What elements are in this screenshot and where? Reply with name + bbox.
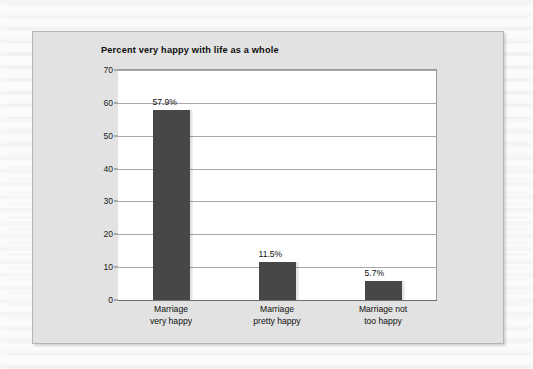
y-axis-tick-mark bbox=[114, 135, 118, 136]
x-axis-category-label-line: Marriage bbox=[119, 304, 223, 316]
x-axis-category-label-line: very happy bbox=[119, 316, 223, 328]
bar-group[interactable]: 57.9% bbox=[131, 70, 211, 300]
x-axis-category-label-line: Marriage not bbox=[331, 304, 435, 316]
y-axis-tick-mark bbox=[114, 102, 118, 103]
x-axis-category-label: Marriagepretty happy bbox=[225, 304, 329, 327]
chart-title: Percent very happy with life as a whole bbox=[101, 45, 279, 55]
y-axis-tick-label: 70 bbox=[103, 65, 113, 75]
y-axis-tick-mark bbox=[114, 234, 118, 235]
bar-value-label: 57.9% bbox=[153, 97, 177, 107]
y-axis-tick-mark bbox=[114, 300, 118, 301]
y-axis-tick-label: 30 bbox=[103, 196, 113, 206]
y-axis-tick-mark bbox=[114, 267, 118, 268]
y-axis-tick-mark bbox=[114, 201, 118, 202]
bar[interactable]: 5.7% bbox=[365, 281, 402, 300]
y-axis-tick-label: 0 bbox=[108, 295, 113, 305]
chart-figure-panel: Percent very happy with life as a whole … bbox=[32, 31, 504, 344]
plot-area: 01020304050607057.9%11.5%5.7% bbox=[118, 69, 437, 300]
x-axis-category-label-line: pretty happy bbox=[225, 316, 329, 328]
bar-value-label: 5.7% bbox=[365, 268, 385, 278]
bar-value-label: 11.5% bbox=[259, 249, 283, 259]
x-axis-category-label-line: too happy bbox=[331, 316, 435, 328]
y-axis-tick-mark bbox=[114, 168, 118, 169]
x-axis-category-label: Marriage nottoo happy bbox=[331, 304, 435, 327]
y-axis-tick-mark bbox=[114, 70, 118, 71]
y-axis-tick-label: 40 bbox=[103, 164, 113, 174]
bar[interactable]: 11.5% bbox=[259, 262, 296, 300]
bar-group[interactable]: 5.7% bbox=[343, 70, 423, 300]
bar[interactable]: 57.9% bbox=[153, 110, 190, 300]
y-axis-tick-label: 10 bbox=[103, 262, 113, 272]
x-axis-category-label-line: Marriage bbox=[225, 304, 329, 316]
bar-group[interactable]: 11.5% bbox=[237, 70, 317, 300]
y-axis-tick-label: 60 bbox=[103, 98, 113, 108]
y-axis-tick-label: 50 bbox=[103, 131, 113, 141]
x-axis-category-label: Marriagevery happy bbox=[119, 304, 223, 327]
y-axis-tick-label: 20 bbox=[103, 229, 113, 239]
